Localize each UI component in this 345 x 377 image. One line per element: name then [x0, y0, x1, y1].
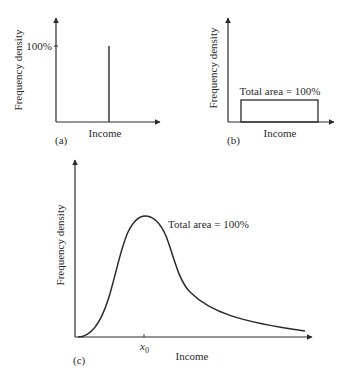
panel-b-ylabel: Frequency density — [207, 27, 219, 108]
panel-a-ylabel: Frequency density — [12, 29, 24, 110]
panel-a-tick-label: 100% — [26, 40, 52, 52]
panel-b-annotation: Total area = 100% — [240, 85, 321, 97]
panel-a-xlabel: Income — [89, 127, 122, 139]
panel-a-label: (a) — [55, 134, 68, 147]
panel-c-annotation: Total area = 100% — [168, 218, 249, 230]
panel-c-x0-label: x0 — [139, 340, 149, 355]
panel-c-label: (c) — [73, 354, 86, 367]
panel-c: Total area = 100% Frequency density Inco… — [54, 160, 312, 367]
panel-b-xlabel: Income — [264, 127, 297, 139]
panel-b-uniform-rect — [241, 100, 318, 122]
panel-c-ylabel: Frequency density — [54, 204, 66, 285]
income-distribution-diagram: 100% Frequency density Income (a) Total … — [0, 0, 345, 377]
panel-c-xlabel: Income — [176, 350, 209, 362]
panel-b: Total area = 100% Frequency density Inco… — [207, 18, 334, 147]
panel-b-label: (b) — [227, 134, 240, 147]
panel-a: 100% Frequency density Income (a) — [12, 18, 160, 147]
panel-c-density-curve — [78, 216, 305, 337]
